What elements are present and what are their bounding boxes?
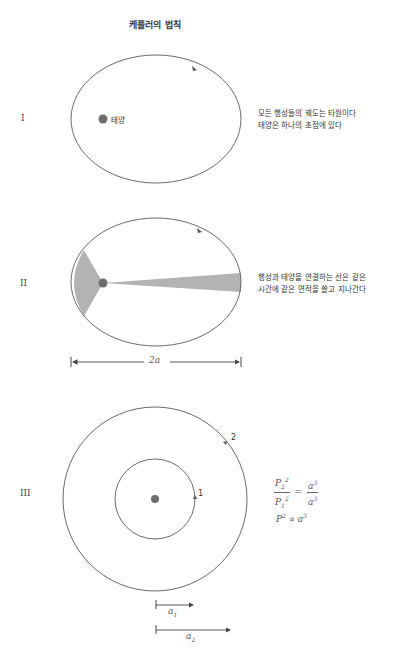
period-ratio-formula: P22 P12 = a3 a3 [274, 474, 318, 511]
p2-sub: 2 [281, 483, 285, 490]
law-1-description: 모든 행성들의 궤도는 타원이다 태양은 하나의 초점에 있다 [258, 108, 356, 132]
a2-sub: 2 [191, 636, 195, 643]
a1-sub: 1 [173, 611, 177, 618]
kepler-diagram [0, 0, 394, 670]
a1-label: a1 [168, 606, 177, 618]
swept-area-right [103, 273, 241, 292]
sun-label: 태양 [111, 114, 125, 125]
p2-sup: 2 [285, 476, 289, 483]
period-fraction: P22 P12 [274, 474, 290, 511]
orbit-ellipse-1 [71, 55, 241, 183]
law-2-line-2: 시간에 같은 면적을 쓸고 지나간다 [258, 284, 366, 296]
p1-sup: 2 [285, 495, 289, 502]
planet-2-label: 2 [231, 433, 236, 442]
a2-sup: 3 [313, 479, 317, 486]
sun-1 [99, 115, 108, 124]
axis-fraction: a3 a3 [307, 477, 318, 508]
planet-1-label: 1 [198, 489, 203, 498]
planet-2-arrow [223, 441, 227, 445]
prop-p-sup: 2 [282, 512, 286, 519]
law-2-description: 행성과 태양을 연결하는 선은 같은 시간에 같은 면적을 쓸고 지나간다 [258, 272, 366, 296]
law-1-line-2: 태양은 하나의 초점에 있다 [258, 120, 356, 132]
orbit-direction-arrow-2 [197, 228, 202, 233]
law-2-line-1: 행성과 태양을 연결하는 선은 같은 [258, 272, 366, 284]
p1-sub: 1 [281, 502, 285, 509]
proportionality-formula: P2 ∝ a3 [276, 512, 307, 524]
a1-sup: 3 [313, 495, 317, 502]
prop-a-sup: 3 [303, 512, 307, 519]
equals-sign: = [295, 487, 303, 497]
a2-label: a2 [186, 631, 195, 643]
sun-3 [151, 495, 159, 503]
law-1-line-1: 모든 행성들의 궤도는 타원이다 [258, 108, 356, 120]
sun-2 [99, 279, 108, 288]
proportional-sign: ∝ [289, 514, 295, 524]
planet-1-arrow [193, 495, 197, 499]
orbit-direction-arrow-1 [192, 66, 197, 71]
major-axis-label: 2a [149, 355, 160, 365]
